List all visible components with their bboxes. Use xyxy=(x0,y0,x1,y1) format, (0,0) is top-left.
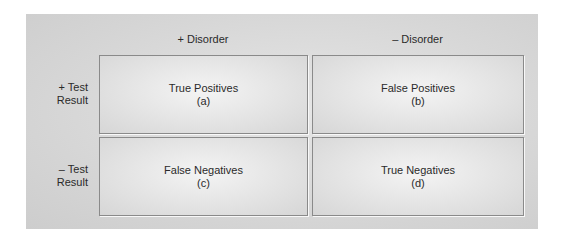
cell-code: (a) xyxy=(197,95,210,108)
cell-title: False Positives xyxy=(381,82,455,95)
cell-false-positives: False Positives (b) xyxy=(312,55,524,134)
row-header-line2: Result xyxy=(40,176,88,189)
cell-true-positives: True Positives (a) xyxy=(99,55,308,134)
cell-code: (d) xyxy=(411,177,424,190)
row-header-negative-test: – Test Result xyxy=(40,163,88,189)
cell-true-negatives: True Negatives (d) xyxy=(312,137,524,216)
row-header-positive-test: + Test Result xyxy=(40,81,88,107)
cell-code: (c) xyxy=(197,177,210,190)
cell-code: (b) xyxy=(411,95,424,108)
row-header-line1: – Test xyxy=(40,163,88,176)
column-header-negative-disorder: – Disorder xyxy=(312,33,523,45)
row-header-line1: + Test xyxy=(40,81,88,94)
row-header-line2: Result xyxy=(40,94,88,107)
cell-title: False Negatives xyxy=(164,164,243,177)
cell-false-negatives: False Negatives (c) xyxy=(99,137,308,216)
column-header-positive-disorder: + Disorder xyxy=(99,33,307,45)
cell-title: True Positives xyxy=(169,82,238,95)
cell-title: True Negatives xyxy=(381,164,455,177)
